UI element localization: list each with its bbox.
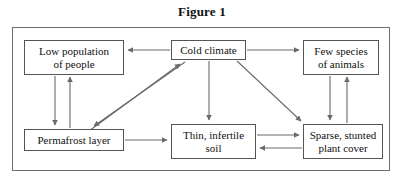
node-permafrost-layer[interactable]: Permafrost layer (24, 129, 124, 151)
node-few-species-line1: Few species (312, 45, 369, 58)
node-sparse-stunted-plant-cover[interactable]: Sparse, stunted plant cover (303, 124, 383, 159)
node-low-population[interactable]: Low population of people (24, 40, 124, 75)
node-cold-climate-line1: Cold climate (178, 44, 239, 57)
node-cold-climate[interactable]: Cold climate (171, 40, 246, 60)
node-permafrost-line1: Permafrost layer (36, 134, 113, 147)
node-thin-infertile-soil[interactable]: Thin, infertile soil (171, 124, 256, 159)
edge-cold-climate-to-sparse-cover (237, 61, 301, 121)
node-thin-soil-line2: soil (181, 142, 246, 155)
node-few-species[interactable]: Few species of animals (303, 40, 379, 75)
diagram-frame: Low population of people Cold climate Fe… (12, 27, 390, 171)
node-sparse-cover-line2: plant cover (308, 142, 379, 155)
node-thin-soil-line1: Thin, infertile (181, 129, 246, 142)
node-few-species-line2: of animals (312, 58, 369, 71)
node-low-population-line1: Low population (37, 45, 111, 58)
node-sparse-cover-line1: Sparse, stunted (308, 129, 379, 142)
node-low-population-line2: of people (37, 58, 111, 71)
page-title: Figure 1 (0, 4, 404, 20)
